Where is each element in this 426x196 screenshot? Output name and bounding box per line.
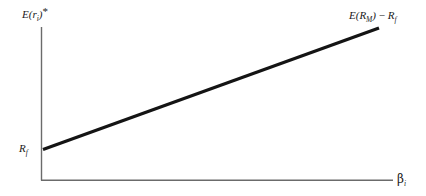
figure-background	[0, 0, 426, 196]
y-axis-label-base: E(r	[22, 8, 37, 20]
risk-free-rate-label: Rf	[19, 143, 28, 154]
x-axis-label-beta: β	[397, 172, 404, 186]
sml-label-riskfree-subscript: f	[394, 15, 396, 24]
x-axis-label-subscript: i	[404, 179, 406, 188]
x-axis-label: βi	[397, 173, 406, 185]
y-axis-label-star: *	[42, 5, 48, 17]
risk-free-rate-base: R	[19, 142, 26, 154]
sml-label-minus-operator: −	[376, 9, 388, 21]
y-axis-label-subscript: i	[37, 14, 39, 23]
sml-label-expected-market-return: E(R	[349, 9, 366, 21]
sml-endpoint-label: E(RM) − Rf	[349, 10, 397, 21]
sml-label-market-subscript: M	[366, 15, 372, 24]
plot-canvas	[0, 0, 426, 196]
risk-free-rate-subscript: f	[26, 148, 28, 157]
y-axis-label: E(ri)*	[22, 9, 48, 20]
security-market-line-figure: E(ri)* E(RM) − Rf Rf βi	[0, 0, 426, 196]
